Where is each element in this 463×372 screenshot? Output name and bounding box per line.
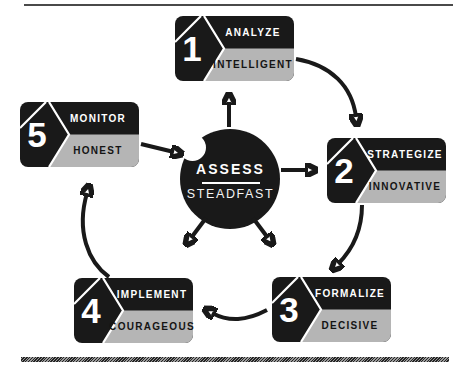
step-name: MONITOR <box>60 103 136 134</box>
step-trait: DECISIVE <box>312 310 388 340</box>
arrow-step5-to-center <box>141 144 174 152</box>
arrow-step1-to-step2 <box>296 59 356 117</box>
center-subtitle: STEADFAST <box>180 187 281 203</box>
step-trait: INTELLIGENT <box>215 49 291 79</box>
assess-circle-text: ASSESS STEADFAST <box>180 161 281 202</box>
step-number: 5 <box>20 102 54 167</box>
circle-bite-notch <box>179 134 206 161</box>
step-name: STRATEGIZE <box>367 139 443 170</box>
step-trait: HONEST <box>60 135 136 165</box>
top-divider-rule <box>24 4 453 6</box>
step-badge-1: 1 ANALYZE INTELLIGENT <box>175 16 294 81</box>
step-number: 3 <box>272 277 306 342</box>
arrow-step2-to-step3 <box>338 205 362 264</box>
step-name: IMPLEMENT <box>114 279 190 310</box>
arrow-step4-to-step5 <box>83 193 109 277</box>
arrow-step3-to-step4 <box>212 310 267 319</box>
step-badge-3: 3 FORMALIZE DECISIVE <box>272 277 391 342</box>
step-badge-4: 4 IMPLEMENT COURAGEOUS <box>74 278 193 343</box>
step-trait: COURAGEOUS <box>114 311 190 341</box>
step-number: 2 <box>327 138 361 203</box>
step-name: ANALYZE <box>215 17 291 48</box>
step-number: 1 <box>175 16 209 81</box>
step-badge-2: 2 STRATEGIZE INNOVATIVE <box>327 138 446 203</box>
step-number: 4 <box>74 278 108 343</box>
step-badge-5: 5 MONITOR HONEST <box>20 102 139 167</box>
step-name: FORMALIZE <box>312 278 388 309</box>
center-divider-line <box>202 182 260 184</box>
bottom-hatched-rule <box>21 357 449 362</box>
step-trait: INNOVATIVE <box>367 171 443 201</box>
center-title: ASSESS <box>180 161 281 179</box>
